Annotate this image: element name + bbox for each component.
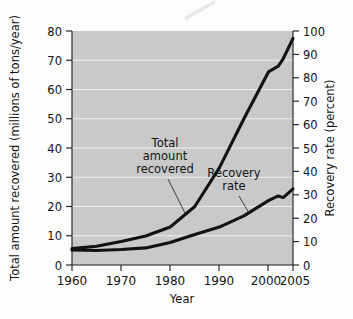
x-tick-label-1990: 1990 — [204, 274, 235, 288]
left-axis-tick-labels: 80 70 60 50 40 30 20 10 0 — [47, 25, 62, 273]
left-axis-ticks — [66, 31, 72, 265]
right-axis-tick-labels: 100 90 80 70 60 50 40 30 20 10 0 — [303, 25, 325, 273]
annotation-total-line-1: Total — [151, 136, 179, 150]
x-axis-tick-labels: 1960 1970 1980 1990 2000 2005 — [57, 274, 311, 288]
right-tick-label-30: 30 — [303, 188, 318, 202]
annotation-recovery-line-2: rate — [222, 179, 245, 193]
annotation-total-line-3: recovered — [136, 162, 194, 176]
right-tick-label-20: 20 — [303, 212, 318, 226]
right-tick-label-60: 60 — [303, 118, 318, 132]
x-tick-label-1970: 1970 — [106, 274, 137, 288]
x-tick-label-2000: 2000 — [251, 274, 282, 288]
x-tick-label-2005: 2005 — [280, 274, 311, 288]
annotation-total-line-2: amount — [143, 149, 188, 163]
left-tick-label-0: 0 — [55, 259, 62, 273]
x-tick-label-1960: 1960 — [57, 274, 88, 288]
right-tick-label-40: 40 — [303, 165, 318, 179]
right-tick-label-90: 90 — [303, 48, 318, 62]
right-tick-label-70: 70 — [303, 95, 318, 109]
right-tick-label-10: 10 — [303, 235, 318, 249]
annotation-recovery-line-1: Recovery — [207, 166, 261, 180]
right-tick-label-0: 0 — [303, 259, 310, 273]
left-tick-label-70: 70 — [47, 54, 62, 68]
right-tick-label-100: 100 — [303, 25, 325, 39]
x-tick-label-1980: 1980 — [155, 274, 186, 288]
left-tick-label-50: 50 — [47, 112, 62, 126]
chart-figure: 80 70 60 50 40 30 20 10 0 100 90 — [0, 0, 353, 319]
chart-svg: 80 70 60 50 40 30 20 10 0 100 90 — [0, 0, 353, 319]
right-axis-title: Recovery rate (percent) — [323, 79, 337, 216]
left-tick-label-40: 40 — [47, 142, 62, 156]
left-tick-label-30: 30 — [47, 171, 62, 185]
right-tick-label-80: 80 — [303, 71, 318, 85]
left-tick-label-10: 10 — [47, 229, 62, 243]
left-axis-title: Total amount recovered (millions of tons… — [8, 15, 22, 282]
right-tick-label-50: 50 — [303, 142, 318, 156]
left-tick-label-20: 20 — [47, 200, 62, 214]
left-tick-label-80: 80 — [47, 25, 62, 39]
x-axis-title: Year — [169, 292, 195, 306]
right-axis-ticks — [293, 31, 299, 265]
left-tick-label-60: 60 — [47, 83, 62, 97]
x-axis-ticks — [72, 265, 293, 271]
